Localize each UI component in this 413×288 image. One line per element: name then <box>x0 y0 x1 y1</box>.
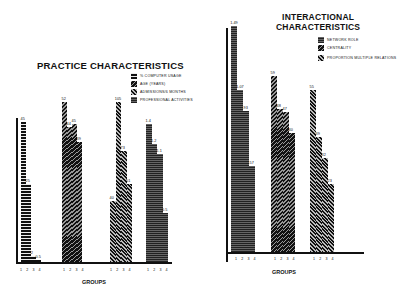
bar-value-label: 105 <box>115 97 121 101</box>
bar-value-label: 1.4 <box>145 119 150 123</box>
bar-value-label: 47 <box>283 107 287 111</box>
interactional-plot-area: 1.491.07.93.575948474055393223 <box>226 20 366 252</box>
bar-value-label: 48 <box>277 104 281 108</box>
bar-value-label: .93 <box>242 106 247 110</box>
bar-value-label: 55 <box>310 85 314 89</box>
bar-value-label: 1.1 <box>156 149 161 153</box>
bar-value-label: 1.49 <box>230 21 237 25</box>
group-ticks: 1 2 3 4 <box>63 268 85 272</box>
practice-x-label: GROUPS <box>82 279 106 285</box>
bar-value-label: 32 <box>322 153 326 157</box>
interactional-x-label: GROUPS <box>272 269 296 275</box>
legend-item: % COMPUTER USAGE <box>131 72 193 80</box>
bar-value-label: 45 <box>21 117 25 121</box>
bar-value-label: 51 <box>126 179 130 183</box>
legend-item: AGE (YEARS) <box>131 80 193 88</box>
legend-label: AGE (YEARS) <box>140 82 165 86</box>
bar-value-label: 44 <box>67 122 71 126</box>
horizontal-bars-swatch-icon <box>131 73 137 79</box>
bar-value-label: 73 <box>121 146 125 150</box>
group-ticks: 1 2 3 4 <box>110 268 132 272</box>
bar-value-label: 39 <box>77 137 81 141</box>
group-ticks: 1 2 3 4 <box>313 257 335 261</box>
bar <box>36 260 41 262</box>
bar-value-label: .57 <box>248 161 253 165</box>
bar-value-label: 25 <box>26 179 30 183</box>
bar-value-label: 2 <box>31 251 33 255</box>
bar-value-label: 1.2 <box>151 139 156 143</box>
group-ticks: 1 2 3 4 <box>274 257 296 261</box>
bar <box>289 133 295 252</box>
bar <box>328 184 334 252</box>
practice-chart-title: PRACTICE CHARACTERISTICS <box>37 60 184 71</box>
bar <box>127 184 133 262</box>
bar <box>249 166 255 252</box>
bar-value-label: 45 <box>72 119 76 123</box>
bar-value-label: 0.5 <box>35 255 40 259</box>
bar-value-label: 40 <box>289 128 293 132</box>
group-ticks: 1 2 3 4 <box>20 268 42 272</box>
bar <box>77 142 82 262</box>
dense-diagonal-swatch-icon <box>131 81 137 87</box>
practice-x-axis <box>16 262 172 264</box>
bar-value-label: 23 <box>328 179 332 183</box>
bar-value-label: 39 <box>316 132 320 136</box>
bar <box>163 213 169 262</box>
legend-label: % COMPUTER USAGE <box>140 74 182 78</box>
bar-value-label: 0.5 <box>162 208 167 212</box>
group-ticks: 1 2 3 4 <box>235 257 257 261</box>
bar-value-label: 40 <box>110 196 114 200</box>
bar-value-label: 1.07 <box>236 85 243 89</box>
bar-value-label: 52 <box>62 97 66 101</box>
group-ticks: 1 2 3 4 <box>147 268 169 272</box>
interactional-x-axis <box>226 252 364 254</box>
practice-plot-area: 452520.5524445394010573511.41.21.10.5 <box>16 90 176 262</box>
bar-value-label: 59 <box>271 71 275 75</box>
